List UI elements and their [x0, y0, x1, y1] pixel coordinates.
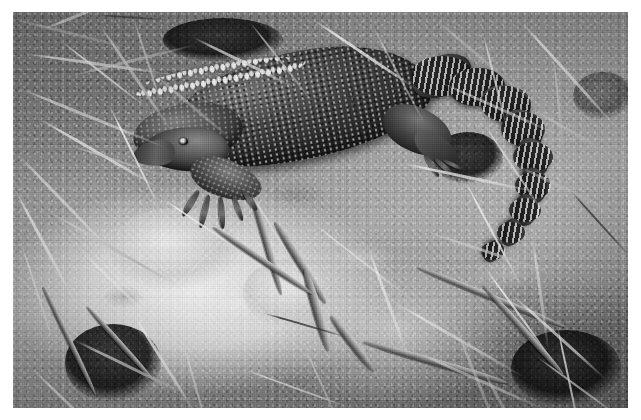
straw-stem [403, 162, 535, 193]
straw-stem [162, 198, 243, 253]
straw-stem [69, 144, 176, 181]
straw-stem [368, 249, 410, 359]
straw-stem [73, 44, 196, 77]
straw-stem [536, 356, 622, 408]
straw-stem [568, 188, 628, 258]
straw-debris-layer [13, 12, 628, 408]
straw-stem [532, 108, 623, 162]
straw-stem [464, 181, 522, 288]
photo-canvas [13, 12, 628, 408]
straw-stem [342, 77, 372, 155]
straw-stem [312, 222, 414, 303]
straw-stem [482, 264, 557, 366]
straw-stem [48, 210, 177, 286]
straw-stem [248, 190, 295, 264]
straw-stem [263, 312, 348, 338]
straw-stem [482, 123, 547, 217]
straw-stem [72, 338, 192, 398]
page-root [0, 0, 641, 420]
straw-stem [432, 16, 533, 102]
straw-stem [442, 82, 558, 136]
straw-stem [248, 20, 314, 103]
straw-stem [97, 14, 171, 21]
straw-stem [372, 27, 426, 125]
straw-stem [152, 72, 233, 141]
straw-stem [82, 252, 153, 320]
straw-stem [482, 33, 507, 127]
straw-stem [32, 368, 124, 408]
straw-stem [556, 325, 581, 408]
photograph [13, 12, 628, 408]
straw-stem [243, 368, 353, 408]
